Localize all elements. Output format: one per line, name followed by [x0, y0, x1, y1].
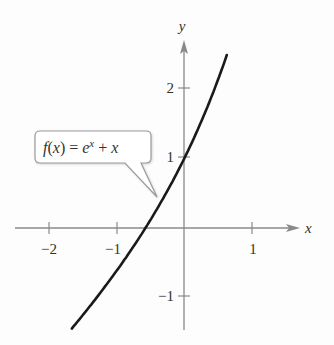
x-tick-label: −1: [105, 241, 121, 257]
x-tick-label: −2: [41, 241, 57, 257]
function-graph: −2 −1 1 2 1 −1 x y f(x) = ex + x: [0, 0, 334, 345]
y-tick-label: −1: [158, 288, 174, 304]
x-tick-label: 1: [249, 241, 257, 257]
function-curve: [72, 55, 227, 329]
y-tick-label: 2: [167, 80, 175, 96]
y-axis-label: y: [177, 18, 186, 34]
function-label: f(x) = ex + x: [43, 137, 118, 157]
function-callout: f(x) = ex + x: [35, 131, 157, 197]
y-tick-label: 1: [167, 149, 175, 165]
x-axis-label: x: [304, 220, 312, 236]
